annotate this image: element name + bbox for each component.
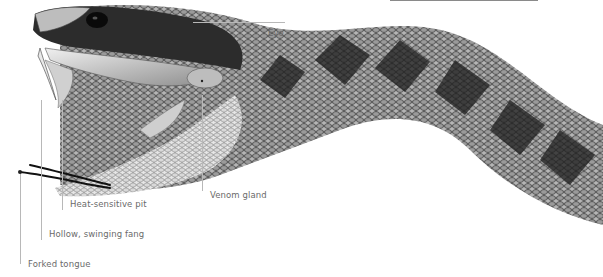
snake-eye (86, 12, 108, 28)
label-eye: Eye (268, 28, 284, 38)
label-forked-tongue: Forked tongue (28, 259, 90, 269)
label-hollow-swinging-fang: Hollow, swinging fang (49, 229, 144, 239)
label-venom-gland: Venom gland (210, 190, 267, 200)
tongue-leader-dot (18, 170, 22, 174)
venom-gland-leader-line (202, 95, 203, 191)
eye-leader-line (193, 22, 285, 23)
label-heat-sensitive-pit: Heat-sensitive pit (70, 199, 147, 209)
tongue-leader-line (20, 172, 21, 264)
fang-leader-line (41, 100, 42, 240)
snake-anatomy-diagram: Eye Venom gland Heat-sensitive pit Hollo… (0, 0, 603, 277)
venom-gland-shape (187, 68, 223, 88)
inset-frame (390, 0, 538, 1)
heat-pit-leader-line (62, 100, 63, 210)
